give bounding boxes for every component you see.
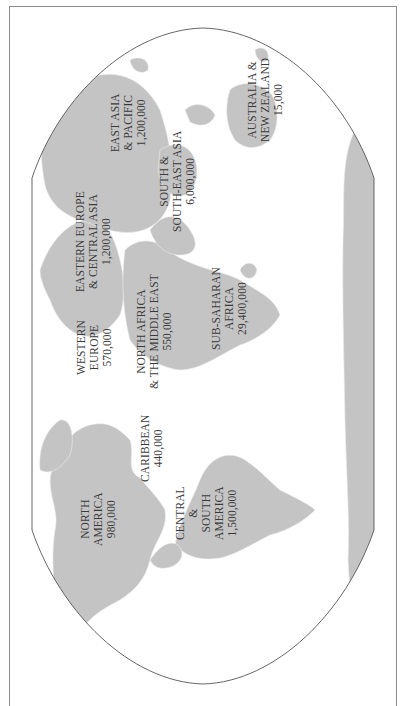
label-east-asia-pacific: EAST ASIA & PACIFIC 1,200,000 [109,93,148,152]
label-line: SOUTH-EAST ASIA [171,131,184,232]
label-line: & CENTRAL ASIA [87,191,100,292]
label-line: SOUTH [200,486,213,540]
label-value: 29,400,000 [236,267,249,350]
label-caribbean: CARIBBEAN 440,000 [139,415,165,482]
japan [130,58,148,72]
label-line: AMERICA [213,486,226,540]
label-value: 1,200,000 [100,191,113,292]
label-line: CARIBBEAN [139,415,152,482]
label-line: EASTERN EUROPE [74,191,87,292]
label-line: & [187,486,200,540]
label-line: EAST ASIA [109,93,122,152]
label-line: AMERICA [92,492,105,546]
label-line: & PACIFIC [122,93,135,152]
label-line: NORTH [79,492,92,546]
label-line: WESTERN [75,320,88,375]
label-value: 1,500,000 [226,486,239,540]
label-line: EUROPE [88,320,101,375]
southeast-asia-islands [185,105,215,126]
label-line: & THE MIDDLE EAST [148,274,161,389]
label-value: 1,200,000 [135,93,148,152]
label-western-europe: WESTERN EUROPE 570,000 [75,320,114,375]
label-central-south-america: CENTRAL & SOUTH AMERICA 1,500,000 [174,486,239,540]
label-line: NORTH AFRICA [135,274,148,389]
label-line: SOUTH & [158,131,171,232]
label-line: AFRICA [223,267,236,350]
label-value: 570,000 [101,320,114,375]
label-line: AUSTRALIA & [246,58,259,142]
label-south-southeast-asia: SOUTH & SOUTH-EAST ASIA 6,000,000 [158,131,197,232]
label-value: 440,000 [152,415,165,482]
label-eastern-europe-central-asia: EASTERN EUROPE & CENTRAL ASIA 1,200,000 [74,191,113,292]
label-value: 550,000 [161,274,174,389]
label-line: SUB-SAHARAN [210,267,223,350]
label-line: NEW ZEALAND [259,58,272,142]
label-australia-new-zealand: AUSTRALIA & NEW ZEALAND 15,000 [246,58,285,142]
label-value: 980,000 [105,492,118,546]
label-sub-saharan-africa: SUB-SAHARAN AFRICA 29,400,000 [210,267,249,350]
label-north-africa-middle-east: NORTH AFRICA & THE MIDDLE EAST 550,000 [135,274,174,389]
label-north-america: NORTH AMERICA 980,000 [79,492,118,546]
label-line: CENTRAL [174,486,187,540]
label-value: 6,000,000 [184,131,197,232]
label-value: 15,000 [272,58,285,142]
